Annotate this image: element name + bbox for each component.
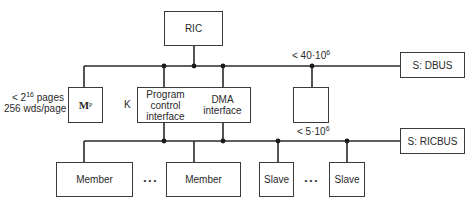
junction-dot: [221, 139, 226, 144]
slave-box-2: Slave: [329, 162, 365, 197]
junction-dot: [276, 139, 281, 144]
slave2-label: Slave: [334, 174, 359, 185]
dbus-rate-exp: 6: [326, 49, 330, 56]
pci-line3: interface: [137, 111, 194, 122]
mp-subscript: P: [89, 102, 92, 108]
mp-words: 256 wds/page: [4, 103, 64, 114]
member2-label: Member: [185, 174, 222, 185]
junction-dot: [162, 64, 167, 69]
junction-dot: [162, 139, 167, 144]
k-label: K: [124, 99, 131, 110]
junction-dot: [310, 64, 315, 69]
ric-box: RIC: [164, 11, 223, 46]
program-control-interface: Program control interface: [137, 89, 194, 122]
mp-pages-exp: 16: [26, 91, 34, 98]
pci-line1: Program: [137, 89, 194, 100]
empty-box: [293, 87, 329, 123]
mp-pages-suffix: pages: [34, 92, 64, 103]
mp-pages: < 216 pages: [4, 92, 64, 103]
pci-line2: control: [137, 100, 194, 111]
dbus-rate-label: < 40·106: [292, 50, 330, 61]
ricbus-rate-label: < 5·106: [297, 126, 330, 137]
member-ellipsis: • • •: [138, 175, 162, 186]
junction-dot: [192, 64, 197, 69]
mp-box: MP: [68, 87, 103, 123]
ric-label: RIC: [185, 23, 202, 34]
dbus-rate-base: < 40·10: [292, 50, 326, 61]
mp-capacity-label: < 216 pages 256 wds/page: [4, 92, 64, 114]
slave-ellipsis: • • •: [299, 175, 323, 186]
mp-label: M: [79, 99, 89, 111]
dma-line1: DMA: [194, 94, 251, 105]
dbus-switch-box: S: DBUS: [400, 52, 465, 78]
junction-dot: [221, 64, 226, 69]
dma-line2: interface: [194, 105, 251, 116]
member-box-1: Member: [56, 162, 133, 197]
dma-interface: DMA interface: [194, 94, 251, 116]
ricbus-rate-exp: 6: [326, 125, 330, 132]
member1-label: Member: [76, 174, 113, 185]
ricbus-switch-label: S: RICBUS: [407, 136, 457, 147]
mp-pages-base: < 2: [12, 92, 26, 103]
slave-box-1: Slave: [259, 162, 294, 197]
junction-dot: [345, 139, 350, 144]
dbus-switch-label: S: DBUS: [412, 60, 452, 71]
ricbus-rate-base: < 5·10: [297, 126, 326, 137]
member-box-2: Member: [166, 162, 241, 197]
ricbus-switch-box: S: RICBUS: [400, 128, 465, 154]
slave1-label: Slave: [264, 174, 289, 185]
